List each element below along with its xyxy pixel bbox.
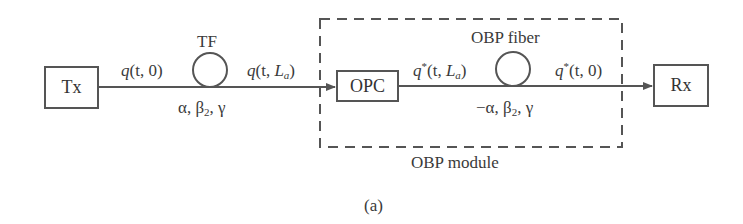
obp-module-label: OBP module bbox=[411, 154, 499, 171]
q-symbol: q bbox=[555, 61, 564, 80]
L-symbol: L bbox=[274, 61, 283, 80]
tf-params: α, β2, γ bbox=[178, 99, 226, 116]
opc-label: OPC bbox=[350, 76, 385, 97]
obp-params: −α, β2, γ bbox=[476, 99, 533, 116]
tf-fiber-coil-icon bbox=[193, 53, 227, 87]
obp-fiber-label: OBP fiber bbox=[471, 29, 540, 46]
signal-q-tLa: q(t, La) bbox=[247, 62, 295, 79]
tx-label: Tx bbox=[62, 77, 82, 98]
q-symbol: q bbox=[121, 61, 130, 80]
signal-qstar-tLa: q*(t, La) bbox=[413, 62, 467, 79]
rx-label: Rx bbox=[670, 75, 691, 96]
params-post: , γ bbox=[517, 98, 533, 117]
q-args: (t, 0) bbox=[569, 61, 602, 80]
q-args-pre: (t, bbox=[427, 61, 446, 80]
tf-label: TF bbox=[197, 33, 217, 50]
q-args-post: ) bbox=[289, 61, 295, 80]
obp-fiber-coil-icon bbox=[496, 52, 530, 86]
params-pre: α, β bbox=[178, 98, 204, 117]
signal-qstar-t0: q*(t, 0) bbox=[555, 62, 602, 79]
params-post: , γ bbox=[210, 98, 226, 117]
L-symbol: L bbox=[446, 61, 455, 80]
opc-block: OPC bbox=[336, 70, 399, 102]
figure-caption: (a) bbox=[364, 197, 383, 214]
signal-q-t0: q(t, 0) bbox=[121, 62, 163, 79]
q-args-post: ) bbox=[461, 61, 467, 80]
params-pre: −α, β bbox=[476, 98, 512, 117]
tx-block: Tx bbox=[44, 66, 99, 109]
q-args-pre: (t, bbox=[256, 61, 275, 80]
q-args: (t, 0) bbox=[130, 61, 163, 80]
q-symbol: q bbox=[413, 61, 422, 80]
q-symbol: q bbox=[247, 61, 256, 80]
rx-block: Rx bbox=[653, 64, 709, 107]
diagram-canvas bbox=[0, 0, 743, 224]
